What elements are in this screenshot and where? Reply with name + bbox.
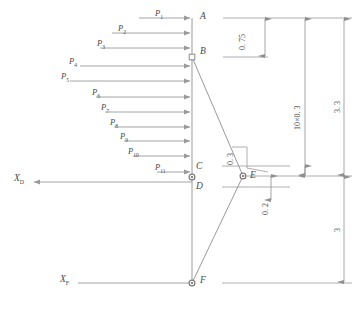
node-label-A: A: [200, 12, 206, 22]
dimension-extension-lines: [222, 18, 352, 283]
load-label-6: P6: [92, 88, 100, 99]
load-label-8: P8: [110, 118, 118, 129]
dimension-lines: [265, 19, 344, 282]
dim-label-03: 0. 3: [227, 153, 235, 165]
load-label-4: P4: [69, 57, 77, 68]
dim-label-33: 3. 3: [334, 101, 342, 113]
node-marker-B: [189, 54, 195, 60]
dim-label-10x03: 10×0. 3: [294, 105, 302, 130]
node-label-E: E: [250, 171, 256, 181]
node-label-B: B: [200, 47, 206, 57]
axis-label-XD: XD: [14, 174, 24, 185]
member-brace-BE: [192, 57, 243, 176]
load-label-1: P1: [155, 9, 163, 20]
load-label-11: P11: [155, 163, 166, 174]
frame-members: [192, 18, 243, 283]
node-marker-F-center: [191, 282, 193, 284]
node-label-D: D: [196, 182, 203, 192]
dim-label-075: 0. 75: [239, 34, 247, 50]
load-label-3: P3: [97, 39, 105, 50]
node-marker-D-center: [191, 176, 193, 178]
axis-lines: [34, 182, 192, 283]
load-label-5: P5: [61, 72, 69, 83]
node-label-C: C: [196, 162, 202, 172]
figure-canvas: P1 P2 P3 P4 P5 P6 P7 P8 P9 P10 P11 A B C…: [0, 0, 359, 309]
node-label-F: F: [200, 276, 206, 286]
member-brace-EF: [192, 176, 243, 283]
axis-label-XF: XF: [60, 275, 69, 286]
load-label-9: P9: [120, 132, 128, 143]
diagram-svg: [0, 0, 359, 309]
dim-label-02: 0. 2: [262, 203, 270, 215]
load-label-7: P7: [101, 103, 109, 114]
load-label-10: P10: [128, 147, 139, 158]
load-label-2: P2: [118, 24, 126, 35]
dim-label-3: 3: [334, 228, 342, 232]
